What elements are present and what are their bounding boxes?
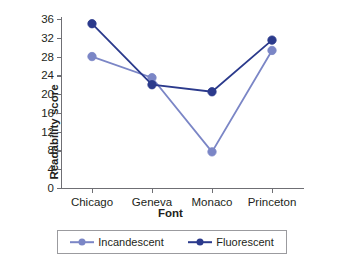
y-axis-tick (57, 150, 62, 151)
y-axis-tick-label: 20 (41, 88, 54, 100)
y-axis-tick-label: 36 (41, 13, 54, 25)
y-axis-tick-label: 32 (41, 32, 54, 44)
legend-item[interactable]: Incandescent (70, 236, 163, 248)
legend-marker-icon (70, 237, 94, 247)
x-axis-tick (272, 188, 273, 193)
y-axis-tick (57, 113, 62, 114)
y-axis-tick-label: 24 (41, 69, 54, 81)
readability-score-line-chart: Readability score 04812162024283236Chica… (0, 0, 341, 263)
series-layer (62, 19, 302, 188)
y-axis-tick-label: 0 (48, 182, 54, 194)
chart-legend: IncandescentFluorescent (57, 230, 287, 254)
y-axis-tick (57, 169, 62, 170)
data-point-marker (88, 52, 96, 60)
x-axis-tick (92, 188, 93, 193)
y-axis-tick (57, 57, 62, 58)
plot-area: 04812162024283236ChicagoGenevaMonacoPrin… (62, 19, 302, 188)
legend-label: Incandescent (98, 236, 163, 248)
x-axis-tick (212, 188, 213, 193)
y-axis-tick-label: 8 (48, 144, 54, 156)
legend-item[interactable]: Fluorescent (188, 236, 273, 248)
legend-label: Fluorescent (216, 236, 273, 248)
y-axis-tick-label: 28 (41, 51, 54, 63)
y-axis-tick (57, 94, 62, 95)
data-point-marker (88, 19, 96, 27)
y-axis-tick-label: 16 (41, 107, 54, 119)
y-axis-tick (57, 75, 62, 76)
data-point-marker (268, 36, 276, 44)
y-axis-tick (57, 19, 62, 20)
data-point-marker (208, 88, 216, 96)
x-axis-line (61, 188, 304, 189)
y-axis-tick-label: 4 (48, 163, 54, 175)
data-point-marker (208, 148, 216, 156)
y-axis-tick-label: 12 (41, 126, 54, 138)
y-axis-tick (57, 188, 62, 189)
series-line (92, 50, 272, 151)
x-axis-title: Font (0, 207, 341, 219)
data-point-marker (268, 46, 276, 54)
data-point-marker (148, 81, 156, 89)
y-axis-tick (57, 38, 62, 39)
series-line (92, 24, 272, 92)
y-axis-tick (57, 132, 62, 133)
x-axis-tick (152, 188, 153, 193)
legend-marker-icon (188, 237, 212, 247)
